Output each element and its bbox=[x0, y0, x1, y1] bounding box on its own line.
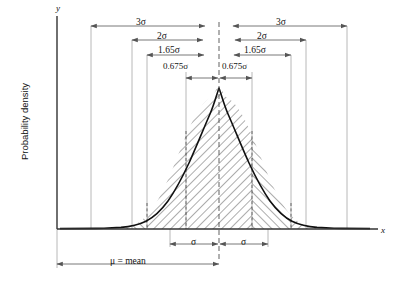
label-3sigma-left: 3σ bbox=[136, 18, 146, 28]
label-2sigma-right: 2σ bbox=[257, 32, 267, 42]
distribution-plot bbox=[0, 0, 397, 281]
label-0-675sigma-left: 0.675σ bbox=[163, 62, 188, 71]
x-axis-tip-label: x bbox=[381, 226, 385, 235]
label-0-675sigma-right: 0.675σ bbox=[222, 62, 247, 71]
label-1sigma-left: σ bbox=[191, 238, 196, 248]
y-axis-title: Probability density bbox=[20, 83, 30, 160]
label-1-65sigma-right: 1.65σ bbox=[244, 46, 266, 56]
normal-distribution-figure: y x Probability density 3σ 3σ 2σ 2σ 1.65… bbox=[0, 0, 397, 281]
label-3sigma-right: 3σ bbox=[276, 18, 286, 28]
label-2sigma-left: 2σ bbox=[157, 32, 167, 42]
label-mean: μ = mean bbox=[110, 257, 146, 267]
label-1sigma-right: σ bbox=[241, 238, 246, 248]
label-1-65sigma-left: 1.65σ bbox=[158, 46, 180, 56]
y-axis-tip-label: y bbox=[56, 4, 60, 13]
